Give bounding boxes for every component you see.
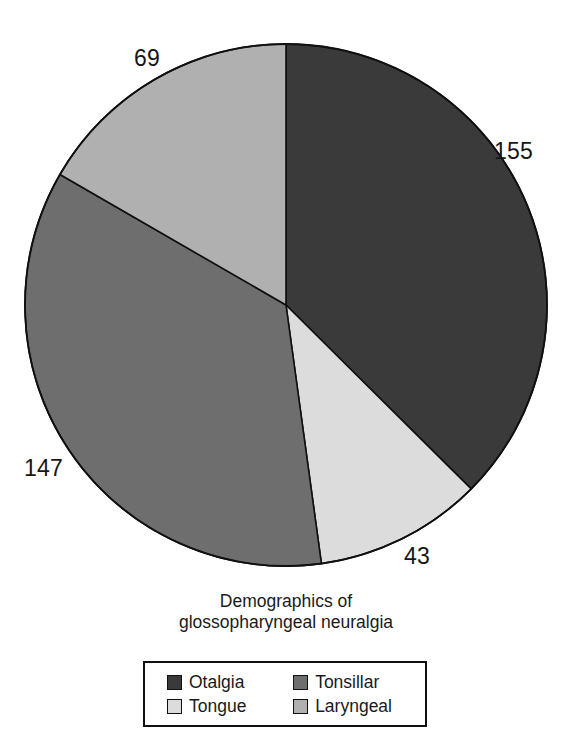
pie-value-label-otalgia: 155 (494, 140, 533, 163)
chart-legend: Otalgia Tonsillar Tongue Laryngeal (143, 661, 427, 727)
legend-label-otalgia: Otalgia (189, 672, 244, 692)
legend-item-laryngeal: Laryngeal (283, 696, 425, 716)
legend-label-laryngeal: Laryngeal (315, 696, 392, 716)
legend-swatch-laryngeal (293, 699, 308, 714)
pie-value-label-tonsillar: 147 (24, 457, 63, 480)
legend-item-tonsillar: Tonsillar (283, 672, 425, 692)
legend-swatch-otalgia (167, 675, 182, 690)
chart-title-line-1: Demographics of (0, 591, 572, 612)
legend-item-tongue: Tongue (145, 696, 283, 716)
legend-row-1: Otalgia Tonsillar (145, 670, 425, 694)
pie-chart-svg (0, 0, 572, 580)
pie-chart-figure: 155 43 147 69 Demographics of glossophar… (0, 0, 572, 753)
figure-caption-strip (0, 742, 572, 753)
legend-item-otalgia: Otalgia (145, 672, 283, 692)
chart-title-line-2: glossopharyngeal neuralgia (0, 612, 572, 633)
legend-row-2: Tongue Laryngeal (145, 694, 425, 718)
legend-label-tonsillar: Tonsillar (315, 672, 379, 692)
legend-swatch-tonsillar (293, 675, 308, 690)
legend-label-tongue: Tongue (189, 696, 246, 716)
legend-swatch-tongue (167, 699, 182, 714)
pie-value-label-laryngeal: 69 (134, 47, 160, 70)
pie-chart-plot-area: 155 43 147 69 (0, 0, 572, 580)
pie-slice-group (25, 44, 547, 566)
pie-value-label-tongue: 43 (404, 545, 430, 568)
chart-title: Demographics of glossopharyngeal neuralg… (0, 591, 572, 633)
